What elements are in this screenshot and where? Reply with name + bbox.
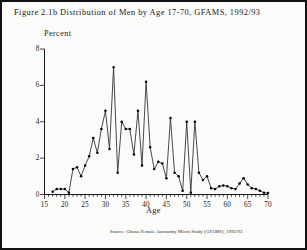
x-tick-label: 60: [224, 201, 232, 209]
x-tick-label: 35: [122, 201, 130, 209]
x-tick-label: 40: [142, 201, 150, 209]
y-tick-label: 6: [31, 81, 40, 89]
chart-plot-area: [0, 0, 307, 250]
x-tick-label: 70: [264, 201, 272, 209]
x-tick-label: 20: [61, 201, 69, 209]
x-tick-label: 30: [102, 201, 110, 209]
x-tick-label: 65: [244, 201, 252, 209]
chart-axes: [40, 49, 268, 199]
x-tick-label: 45: [163, 201, 171, 209]
y-tick-label: 0: [31, 191, 40, 199]
chart-series-markers: [51, 66, 269, 194]
x-tick-label: 55: [203, 201, 211, 209]
x-tick-label: 50: [183, 201, 191, 209]
y-tick-label: 4: [31, 118, 40, 126]
chart-series-line: [53, 67, 268, 193]
x-tick-label: 25: [81, 201, 89, 209]
y-tick-label: 8: [31, 45, 40, 53]
y-tick-label: 2: [31, 154, 40, 162]
figure-page: Figure 2.1b Distribution of Men by Age 1…: [0, 0, 307, 250]
x-tick-label: 15: [41, 201, 49, 209]
